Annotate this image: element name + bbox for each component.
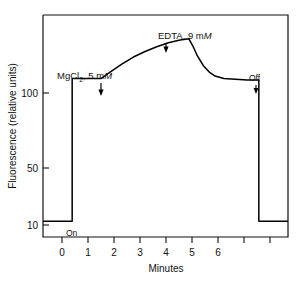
figure-container: 100 50 10 Fluorescence (relative units) … bbox=[0, 0, 305, 281]
edta-prefix: EDTA, 9 m bbox=[158, 30, 204, 41]
x-tick-label-0: 0 bbox=[59, 247, 65, 258]
annotation-on-label: On bbox=[66, 228, 78, 238]
x-axis-ticks bbox=[62, 237, 270, 243]
y-tick-label-10: 10 bbox=[27, 220, 39, 231]
edta-arrow-head bbox=[163, 47, 168, 54]
off-arrow-head bbox=[254, 88, 259, 94]
y-axis-label: Fluorescence (relative units) bbox=[7, 63, 18, 189]
y-tick-label-100: 100 bbox=[21, 88, 38, 99]
fluorescence-trace bbox=[43, 39, 288, 221]
x-tick-label-1: 1 bbox=[85, 247, 91, 258]
x-tick-label-2: 2 bbox=[111, 247, 117, 258]
annotation-edta-label: EDTA, 9 mM bbox=[158, 30, 212, 41]
annotation-edta: EDTA, 9 mM bbox=[158, 30, 212, 53]
x-tick-label-5: 5 bbox=[189, 247, 195, 258]
x-tick-label-6: 6 bbox=[215, 247, 221, 258]
mgcl2-prefix: MgCl bbox=[57, 70, 79, 81]
x-axis-label: Minutes bbox=[148, 263, 183, 274]
mgcl2-arrow-head bbox=[98, 90, 103, 97]
y-tick-label-50: 50 bbox=[27, 163, 39, 174]
mgcl2-italic-M: M bbox=[104, 70, 112, 81]
annotation-mgcl2-label: MgCl2, 5 mM bbox=[57, 70, 112, 83]
mgcl2-middle: , 5 m bbox=[83, 70, 104, 81]
y-axis-ticks bbox=[43, 93, 49, 225]
edta-italic-M: M bbox=[204, 30, 212, 41]
annotation-off-label: Off bbox=[249, 73, 261, 83]
x-tick-label-3: 3 bbox=[137, 247, 143, 258]
fluorescence-chart: 100 50 10 Fluorescence (relative units) … bbox=[0, 0, 305, 281]
x-tick-label-4: 4 bbox=[163, 247, 169, 258]
annotation-mgcl2: MgCl2, 5 mM bbox=[57, 70, 112, 96]
